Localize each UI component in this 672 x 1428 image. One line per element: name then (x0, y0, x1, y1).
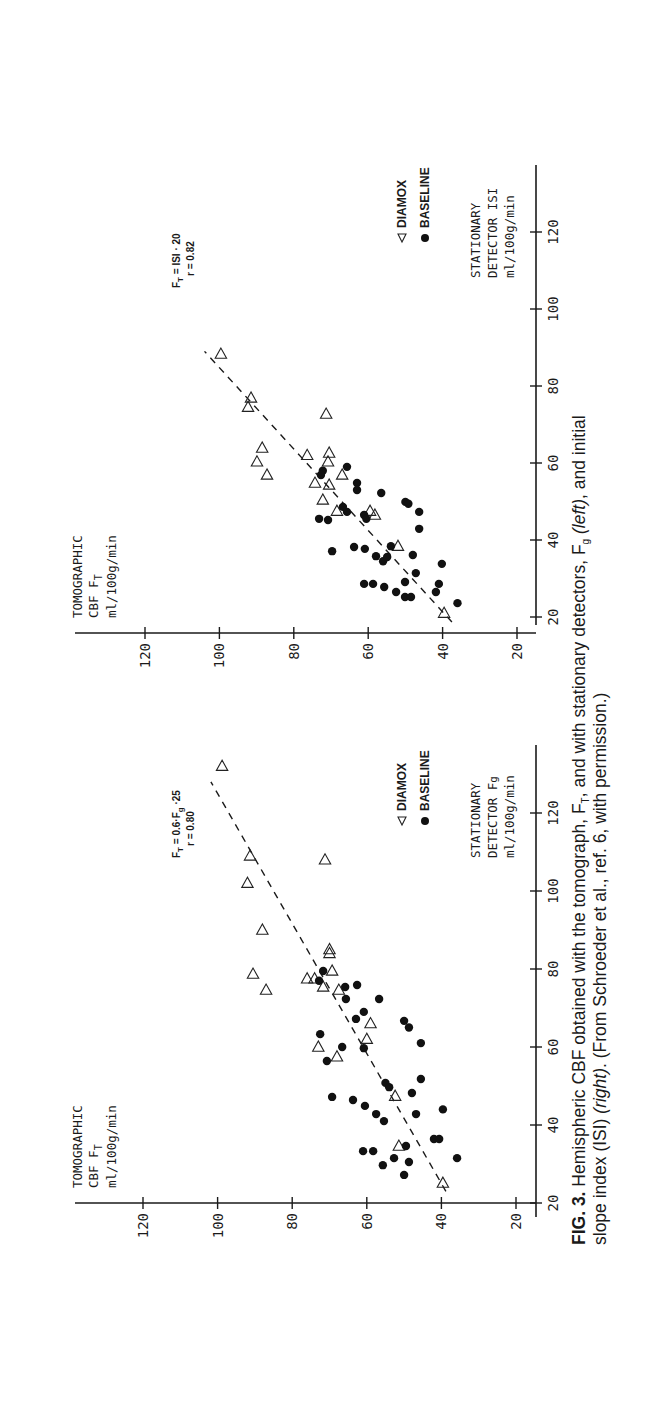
right-regression-equation: FT = ISI · 20 (171, 233, 185, 288)
diamox-point (256, 442, 267, 452)
baseline-point (323, 1057, 331, 1065)
right-x-ticks: 20406080100120 (530, 219, 561, 625)
baseline-point (407, 593, 415, 601)
diamox-point (324, 947, 335, 957)
right-x-axis-label-line3: ml/100g/min (502, 195, 517, 278)
diamox-point (247, 968, 258, 978)
baseline-point (409, 551, 417, 559)
baseline-point (369, 1147, 377, 1155)
diamox-point (331, 1051, 342, 1061)
baseline-point (317, 471, 325, 479)
baseline-point (415, 508, 423, 516)
caption-fig-label: FIG. 3. (569, 1192, 589, 1245)
baseline-point (315, 977, 323, 985)
baseline-point (341, 983, 349, 991)
baseline-point (328, 1093, 336, 1101)
baseline-point (435, 1135, 443, 1143)
x-tick-label: 80 (545, 378, 561, 395)
figure-caption: FIG. 3. Hemispheric CBF obtained with th… (569, 415, 610, 1245)
y-tick-label: 20 (509, 643, 525, 660)
y-tick-label: 120 (135, 1213, 151, 1238)
diamox-point (365, 1018, 376, 1028)
baseline-point (328, 547, 336, 555)
baseline-point (352, 1015, 360, 1023)
y-tick-label: 80 (286, 643, 302, 660)
baseline-point (343, 508, 351, 516)
baseline-point (316, 1030, 324, 1038)
left-y-axis-label-line3: ml/100g/min (104, 1105, 119, 1188)
baseline-point (324, 516, 332, 524)
legend-circle-icon (421, 234, 429, 242)
baseline-point (417, 1039, 425, 1047)
y-tick-label: 120 (137, 643, 153, 668)
right-legend-diamox: DIAMOX (395, 180, 409, 228)
x-tick-label: 20 (545, 609, 561, 626)
baseline-point (350, 543, 358, 551)
baseline-point (415, 525, 423, 533)
baseline-point (319, 967, 327, 975)
baseline-point (361, 545, 369, 553)
figure-page: 20406080100120 20406080100120 TOMOGRAPHI… (0, 0, 672, 1428)
baseline-point (453, 1154, 461, 1162)
baseline-point (380, 1117, 388, 1125)
diamox-point (242, 877, 253, 887)
baseline-point (417, 1075, 425, 1083)
diamox-point (323, 447, 334, 457)
baseline-point (359, 1147, 367, 1155)
legend-triangle-icon (398, 817, 406, 825)
left-correlation-r: r = 0.80 (185, 811, 196, 846)
baseline-point (338, 1043, 346, 1051)
x-tick-label: 80 (545, 961, 561, 978)
x-tick-label: 60 (545, 455, 561, 472)
legend-circle-icon (421, 817, 429, 825)
baseline-point (342, 995, 350, 1003)
baseline-point (372, 552, 380, 560)
diamox-point (317, 494, 328, 504)
baseline-point (383, 553, 391, 561)
baseline-point (390, 1154, 398, 1162)
baseline-point (392, 588, 400, 596)
x-tick-label: 120 (545, 800, 561, 825)
right-y-axis-label-line2: CBF FT (86, 574, 104, 618)
legend-triangle-icon (398, 234, 406, 242)
x-tick-label: 60 (545, 1039, 561, 1056)
diamox-point (257, 924, 268, 934)
baseline-point (315, 515, 323, 523)
baseline-point (372, 1110, 380, 1118)
x-tick-label: 20 (545, 1195, 561, 1212)
baseline-point (408, 1089, 416, 1097)
baseline-point (387, 542, 395, 550)
diamox-point (251, 456, 262, 466)
diamox-point (361, 1033, 372, 1043)
baseline-point (369, 580, 377, 588)
baseline-point (435, 580, 443, 588)
left-scatter-panel: 20406080100120 20406080100120 TOMOGRAPHI… (70, 745, 561, 1238)
baseline-point (405, 1023, 413, 1031)
right-x-axis-label-line2: DETECTOR ISI (485, 188, 500, 278)
x-tick-label: 40 (545, 1117, 561, 1134)
left-x-ticks: 20406080100120 (530, 800, 561, 1211)
right-data-points (215, 348, 461, 617)
rotated-figure: 20406080100120 20406080100120 TOMOGRAPHI… (70, 165, 610, 1245)
left-legend: DIAMOX BASELINE (395, 750, 432, 825)
diamox-point (313, 1041, 324, 1051)
x-tick-label: 100 (545, 878, 561, 903)
diamox-point (261, 469, 272, 479)
diamox-point (242, 401, 253, 411)
baseline-point (361, 1102, 369, 1110)
y-tick-label: 40 (435, 643, 451, 660)
x-tick-label: 120 (545, 219, 561, 244)
diamox-point (216, 760, 227, 770)
x-tick-label: 100 (545, 296, 561, 321)
baseline-point (353, 486, 361, 494)
baseline-point (453, 599, 461, 607)
baseline-point (439, 1105, 447, 1113)
baseline-point (412, 569, 420, 577)
baseline-point (385, 1083, 393, 1091)
diamox-point (326, 965, 337, 975)
left-legend-baseline: BASELINE (418, 750, 432, 811)
y-tick-label: 60 (360, 643, 376, 660)
x-tick-label: 40 (545, 532, 561, 549)
left-y-axis-label-line2: CBF FT (86, 1144, 104, 1188)
left-x-axis-label-line2: DETECTOR Fg (485, 776, 500, 858)
